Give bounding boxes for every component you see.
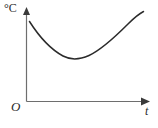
temperature-time-graph: °C O t — [0, 0, 158, 128]
origin-label: O — [11, 100, 20, 113]
y-axis-arrowhead — [23, 7, 30, 15]
x-axis-variable-label: t — [145, 105, 148, 117]
y-axis-unit-label: °C — [4, 2, 17, 14]
graph-canvas — [0, 0, 158, 128]
temperature-curve — [30, 12, 144, 59]
